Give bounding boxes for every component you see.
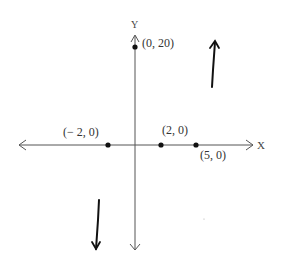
point-label: (5, 0) — [200, 148, 226, 162]
y-axis-label: Y — [131, 19, 138, 30]
speck — [203, 218, 204, 219]
right-end-up-arrow-icon — [210, 41, 219, 87]
point-label: (2, 0) — [162, 123, 188, 137]
point-label: (0, 20) — [142, 36, 174, 50]
coordinate-graph: X Y (0, 20) (− 2, 0) (2, 0) (5, 0) — [0, 0, 282, 262]
left-end-down-arrow-icon — [92, 200, 100, 249]
point-0-20: (0, 20) — [132, 36, 174, 50]
point-2-0: (2, 0) — [158, 123, 188, 148]
point-label: (− 2, 0) — [63, 125, 99, 139]
point-neg2-0: (− 2, 0) — [63, 125, 111, 148]
x-axis: X — [19, 139, 265, 151]
x-axis-label: X — [257, 139, 265, 151]
y-axis: Y — [130, 19, 140, 250]
